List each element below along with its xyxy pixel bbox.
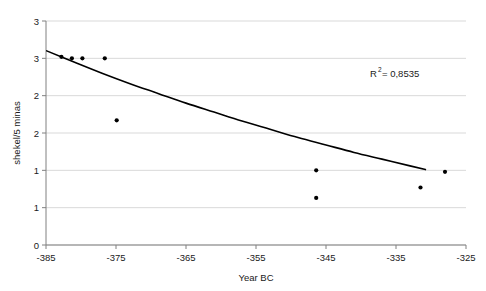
data-point — [115, 118, 119, 122]
y-tick-label: 3 — [34, 16, 39, 27]
data-point — [70, 56, 74, 60]
x-tick-label: -335 — [386, 252, 405, 263]
y-tick-label: 0 — [34, 240, 39, 251]
data-point — [80, 56, 84, 60]
y-tick-label: 1 — [34, 165, 39, 176]
y-axis-title: shekel/5 minas — [11, 101, 22, 165]
data-point — [314, 196, 318, 200]
x-axis-title: Year BC — [238, 272, 273, 283]
y-tick-label: 1 — [34, 202, 39, 213]
r-squared-value: = 0,8535 — [382, 68, 419, 79]
scatter-plot: 0112233 -385-375-365-355-345-335-325 Yea… — [0, 0, 486, 291]
x-tick-label: -325 — [456, 252, 475, 263]
data-point — [314, 168, 318, 172]
r-squared-base: R — [370, 68, 377, 79]
x-tick-label: -375 — [106, 252, 125, 263]
data-point — [443, 170, 447, 174]
y-tick-label: 2 — [34, 90, 39, 101]
chart-container: 0112233 -385-375-365-355-345-335-325 Yea… — [0, 0, 486, 291]
x-tick-label: -345 — [316, 252, 335, 263]
chart-background — [0, 0, 486, 291]
data-point — [418, 185, 422, 189]
data-point — [59, 55, 63, 59]
y-tick-label: 3 — [34, 53, 39, 64]
x-tick-label: -385 — [36, 252, 55, 263]
y-tick-label: 2 — [34, 128, 39, 139]
data-point — [103, 56, 107, 60]
x-tick-label: -365 — [176, 252, 195, 263]
x-tick-label: -355 — [246, 252, 265, 263]
